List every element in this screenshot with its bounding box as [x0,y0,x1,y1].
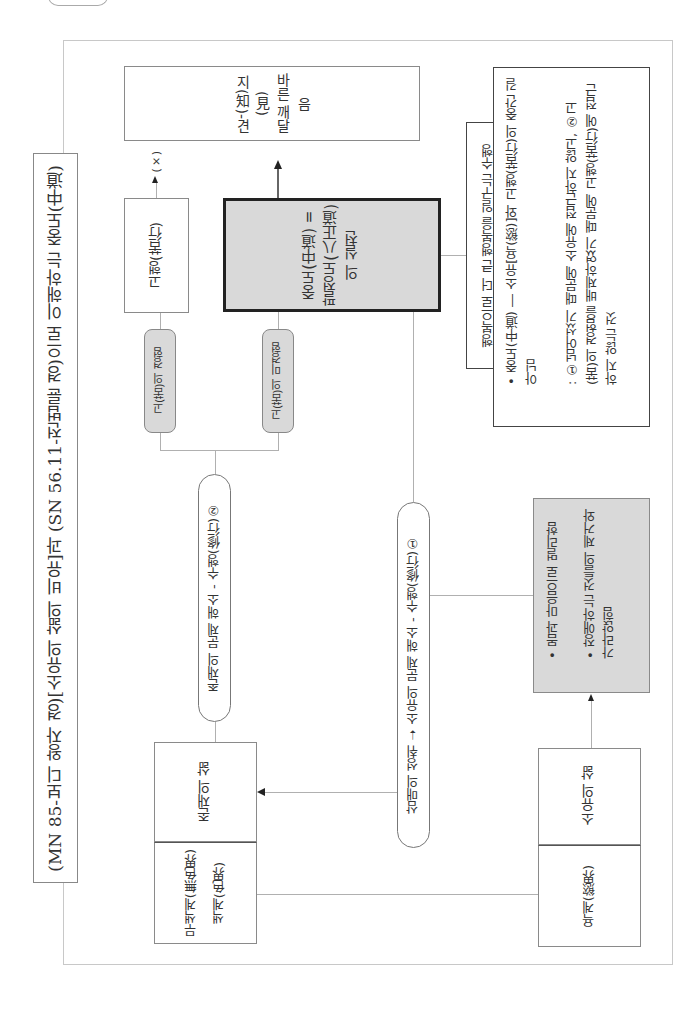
arrow-up-icon [274,160,282,169]
suffering-connector-left [160,433,161,450]
asceticism-result: (×) [148,150,166,174]
middleway-to-happiness-line [441,255,466,256]
arrow-left-icon [257,788,265,796]
suffering-experienced-badge: 고(苦)의 경험 [144,329,176,433]
middle-way-note: • 중도(中道) ― 소유[욕(慾)]와 고행(苦行)의 중간 길 아님 : ①… [493,67,650,427]
practice2-down-line [215,722,216,742]
separation-note: • 몸과 마음으로 멀리함 • 장애하는 것들의 제거와 가라앉힘 [533,498,650,693]
arrow-up-icon [588,694,594,701]
middle-way-box: 중도(中道) = 팔정도(八正道) 의 실천 [223,198,441,312]
realms-connector-line [257,894,538,895]
asceticism-down-line [160,313,161,329]
life-of-possession-box: 소유의 삶 [538,748,641,845]
possession-to-separation-line [591,700,592,748]
page-title: (MN 85-보디 왕자 경)[소유의 삶의 비유]과 (SN 56.11-전법… [33,153,78,883]
arrow-up-icon [152,176,158,183]
insight-box: 지(知)-견(見) 바른 깨달음 [124,66,420,141]
practice1-to-separation-line [430,595,533,596]
suffering-connector-right [278,433,279,450]
desire-realm-box: 욕계(慾界) [538,845,641,947]
middleway-down-line [278,312,279,329]
practice1-to-existence-line [265,792,397,793]
asceticism-up-line [156,182,157,198]
corner-tab [48,0,108,6]
suffering-unexperienced-badge: 고(苦)의 미경험 [262,329,294,433]
middleway-right-down-line [413,312,414,502]
suffering-connector-bar [160,450,279,451]
practice-1-pill: 삼매의 성취 ➝ 소유의 문제 해소 - 수행(修行)① [397,502,430,848]
middleway-to-insight-line [277,168,279,200]
life-of-existence-box: 존재의 삶 [154,742,257,842]
formless-form-realm-box: 무색계(無色界) 색계(色界) [154,842,257,944]
asceticism-box: 고행(苦行) [124,198,189,313]
practice-2-pill: 존재의 문제 해소 - 수행(修行)② [198,474,231,722]
practice2-up-line [215,450,216,474]
